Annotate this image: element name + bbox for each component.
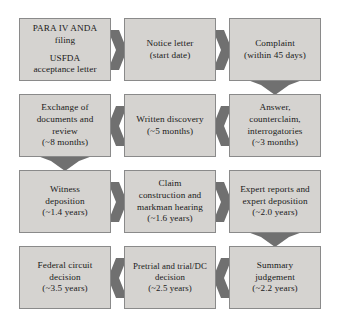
node-line: USFDA bbox=[50, 53, 81, 65]
node-line: Pretrial and trial/DC bbox=[133, 261, 207, 272]
flowchart-canvas: PARA IV ANDA filing USFDA acceptance let… bbox=[0, 0, 343, 320]
node-exchange-of-documents[interactable]: Exchange of documents and review (~8 mon… bbox=[19, 94, 111, 157]
node-line: Exchange of bbox=[41, 102, 88, 114]
node-line: (~2.2 years) bbox=[252, 283, 297, 295]
node-line: (~2.5 years) bbox=[148, 283, 192, 294]
node-line: Complaint bbox=[255, 38, 295, 50]
node-line: Summary bbox=[257, 260, 293, 272]
node-line: decision bbox=[49, 272, 80, 284]
node-line: (within 45 days) bbox=[244, 50, 306, 62]
node-summary-judgement[interactable]: Summary judgement (~2.2 years) bbox=[229, 246, 321, 309]
node-line: review bbox=[52, 126, 78, 138]
node-line: Federal circuit bbox=[38, 260, 93, 272]
node-answer-counterclaim[interactable]: Answer, counterclaim, interrogatories (~… bbox=[229, 94, 321, 157]
node-line: decision bbox=[155, 272, 185, 283]
node-line: (~1.4 years) bbox=[42, 207, 87, 219]
node-line: (start date) bbox=[150, 50, 191, 62]
node-line: Expert reports and bbox=[240, 184, 310, 196]
node-line: expert deposition bbox=[242, 196, 307, 208]
node-complaint[interactable]: Complaint (within 45 days) bbox=[229, 18, 321, 81]
node-federal-circuit-decision[interactable]: Federal circuit decision (~3.5 years) bbox=[19, 246, 111, 309]
node-line: (~5 months) bbox=[147, 126, 193, 138]
node-line: Answer, bbox=[259, 102, 290, 114]
node-line: filing bbox=[55, 35, 76, 47]
node-para-iv-anda-filing[interactable]: PARA IV ANDA filing USFDA acceptance let… bbox=[19, 18, 111, 81]
node-line: (~8 months) bbox=[42, 137, 88, 149]
node-line: (~1.6 years) bbox=[147, 213, 192, 225]
node-claim-construction[interactable]: Claim construction and markman hearing (… bbox=[124, 170, 216, 233]
node-pretrial-and-trial[interactable]: Pretrial and trial/DC decision (~2.5 yea… bbox=[124, 246, 216, 309]
node-line: Notice letter bbox=[147, 38, 194, 50]
node-line: judgement bbox=[255, 272, 295, 284]
node-line: interrogatories bbox=[247, 126, 302, 138]
node-line: acceptance letter bbox=[33, 64, 96, 76]
node-line: markman hearing bbox=[137, 202, 203, 214]
node-witness-deposition[interactable]: Witness deposition (~1.4 years) bbox=[19, 170, 111, 233]
node-line: Witness bbox=[50, 184, 80, 196]
node-line: (~2.0 years) bbox=[252, 207, 297, 219]
node-line: Claim bbox=[159, 178, 182, 190]
node-written-discovery[interactable]: Written discovery (~5 months) bbox=[124, 94, 216, 157]
node-notice-letter[interactable]: Notice letter (start date) bbox=[124, 18, 216, 81]
node-line: counterclaim, bbox=[249, 114, 301, 126]
node-line: (~3 months) bbox=[252, 137, 298, 149]
node-expert-reports[interactable]: Expert reports and expert deposition (~2… bbox=[229, 170, 321, 233]
node-line: PARA IV ANDA bbox=[33, 23, 98, 35]
node-line: (~3.5 years) bbox=[42, 283, 87, 295]
node-line: construction and bbox=[139, 190, 202, 202]
node-line: documents and bbox=[37, 114, 94, 126]
node-line: Written discovery bbox=[136, 114, 203, 126]
node-line: deposition bbox=[45, 196, 84, 208]
